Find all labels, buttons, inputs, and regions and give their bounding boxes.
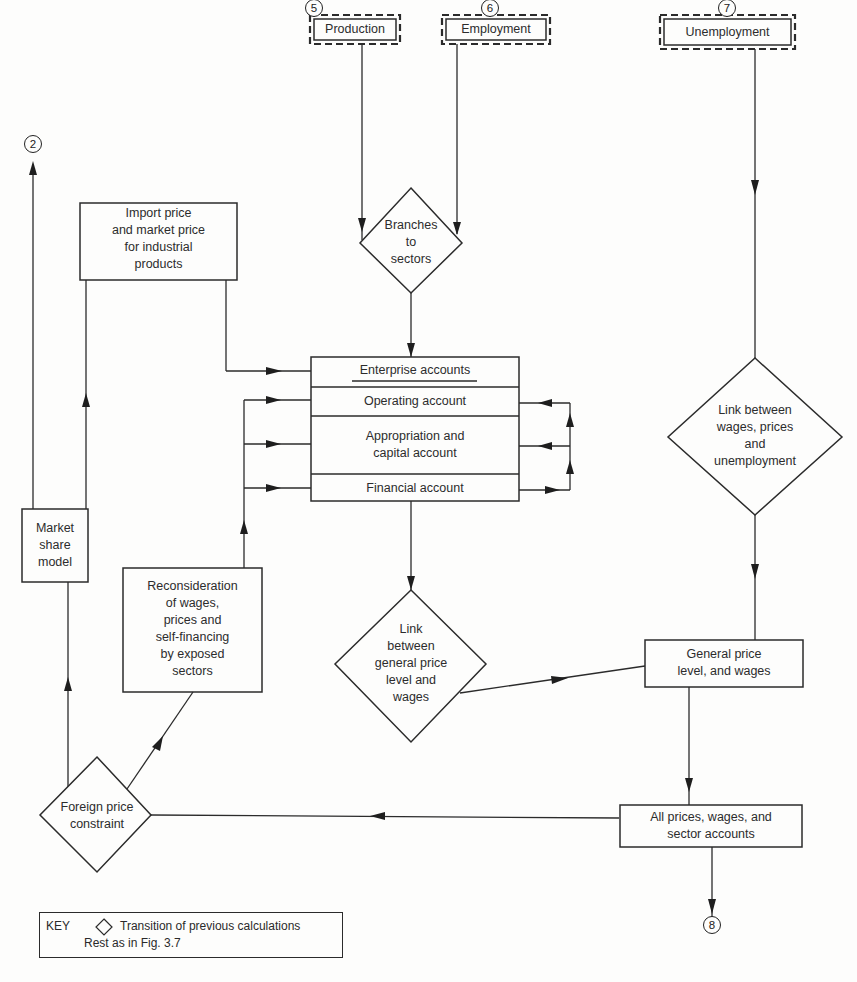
text-line: General price <box>645 646 803 663</box>
appropriation-account-label: Appropriation and capital account <box>311 428 519 462</box>
foreign-price-label: Foreign price constraint <box>46 799 148 833</box>
enterprise-title: Enterprise accounts <box>311 362 519 379</box>
text-line: Appropriation and <box>311 428 519 445</box>
text-line: Import price <box>80 205 237 222</box>
text-line: Reconsideration <box>123 578 262 595</box>
unemployment-label: Unemployment <box>664 24 791 41</box>
text-line: constraint <box>46 816 148 833</box>
key-line1: Transition of previous calculations <box>120 919 300 933</box>
text-line: wages <box>351 689 471 706</box>
all-prices-label: All prices, wages, and sector accounts <box>620 809 802 843</box>
text-line: wages, prices <box>685 419 825 436</box>
market-share-label: Market share model <box>22 520 88 571</box>
reconsideration-label: Reconsideration of wages, prices and sel… <box>123 578 262 680</box>
text-line: Link <box>351 621 471 638</box>
legend-key: KEY Transition of previous calculations … <box>39 912 343 958</box>
text-line: for industrial <box>80 239 237 256</box>
import-price-label: Import price and market price for indust… <box>80 205 237 273</box>
link-general-label: Link between general price level and wag… <box>351 621 471 706</box>
text-line: Branches <box>361 217 461 234</box>
text-line: All prices, wages, and <box>620 809 802 826</box>
text-line: general price <box>351 655 471 672</box>
text-line: Foreign price <box>46 799 148 816</box>
text-line: level, and wages <box>645 663 803 680</box>
branches-label: Branches to sectors <box>361 217 461 268</box>
text-line: and <box>685 436 825 453</box>
text-line: self-financing <box>123 629 262 646</box>
text-line: sector accounts <box>620 826 802 843</box>
general-price-label: General price level, and wages <box>645 646 803 680</box>
text-line: Link between <box>685 402 825 419</box>
employment-label: Employment <box>446 21 546 38</box>
text-line: share <box>22 537 88 554</box>
connector-8: 8 <box>703 916 721 934</box>
key-line2: Rest as in Fig. 3.7 <box>84 936 181 950</box>
text-line: of wages, <box>123 595 262 612</box>
text-line: prices and <box>123 612 262 629</box>
text-line: level and <box>351 672 471 689</box>
key-label: KEY <box>46 919 70 933</box>
financial-account-label: Financial account <box>311 480 519 497</box>
text-line: and market price <box>80 222 237 239</box>
text-line: unemployment <box>685 453 825 470</box>
text-line: Market <box>22 520 88 537</box>
production-label: Production <box>314 21 396 38</box>
text-line: between <box>351 638 471 655</box>
text-line: to <box>361 234 461 251</box>
connector-2: 2 <box>24 135 42 153</box>
operating-account-label: Operating account <box>311 393 519 410</box>
text-line: model <box>22 554 88 571</box>
text-line: products <box>80 256 237 273</box>
text-line: sectors <box>361 251 461 268</box>
text-line: by exposed <box>123 646 262 663</box>
text-line: capital account <box>311 445 519 462</box>
link-unemployment-label: Link between wages, prices and unemploym… <box>685 402 825 470</box>
text-line: sectors <box>123 663 262 680</box>
